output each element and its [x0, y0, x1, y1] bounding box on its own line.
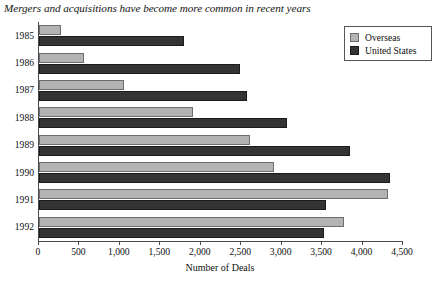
bar-1990-overseas: [39, 162, 274, 172]
bar-1991-overseas: [39, 189, 388, 199]
bar-group: [39, 159, 403, 186]
bar-1988-united-states: [39, 118, 287, 128]
bar-1988-overseas: [39, 107, 193, 117]
dark-gray-swatch: [350, 46, 359, 55]
x-tick: [281, 241, 282, 245]
legend-item: Overseas: [350, 31, 426, 43]
x-tick: [119, 241, 120, 245]
x-tick: [78, 241, 79, 245]
x-tick-label: 4,000: [351, 246, 373, 257]
legend-label: United States: [365, 45, 416, 56]
legend-label: Overseas: [365, 32, 400, 43]
bar-1986-united-states: [39, 64, 240, 74]
bar-1987-united-states: [39, 91, 247, 101]
bar-group: [39, 132, 403, 159]
x-tick-label: 1,500: [149, 246, 171, 257]
y-axis-label-1985: 1985: [0, 30, 34, 41]
x-tick-label: 0: [36, 246, 41, 257]
x-tick-label: 2,000: [189, 246, 211, 257]
bar-1985-overseas: [39, 25, 61, 35]
y-axis-label-1990: 1990: [0, 167, 34, 178]
x-tick-label: 4,500: [391, 246, 413, 257]
x-tick: [200, 241, 201, 245]
light-gray-swatch: [350, 33, 359, 42]
x-axis-title: Number of Deals: [38, 262, 402, 273]
x-tick-label: 3,500: [310, 246, 332, 257]
y-axis-label-1991: 1991: [0, 194, 34, 205]
x-tick-label: 500: [71, 246, 85, 257]
y-axis-label-1989: 1989: [0, 139, 34, 150]
x-axis-tick-labels: 05001,0001,5002,0002,5003,0003,5004,0004…: [0, 246, 439, 260]
bar-group: [39, 186, 403, 213]
bar-1985-united-states: [39, 36, 184, 46]
bar-group: [39, 77, 403, 104]
x-tick: [240, 241, 241, 245]
x-tick-label: 2,500: [229, 246, 251, 257]
bar-1987-overseas: [39, 80, 124, 90]
bar-1990-united-states: [39, 173, 390, 183]
x-tick: [38, 241, 39, 245]
bar-1989-united-states: [39, 146, 350, 156]
chart-legend: OverseasUnited States: [344, 26, 432, 61]
x-tick: [362, 241, 363, 245]
y-axis-label-1988: 1988: [0, 112, 34, 123]
bar-1986-overseas: [39, 53, 84, 63]
x-tick: [321, 241, 322, 245]
chart-title: Mergers and acquisitions have become mor…: [4, 2, 311, 14]
y-axis-label-1992: 1992: [0, 221, 34, 232]
y-axis-label-1986: 1986: [0, 57, 34, 68]
bar-1992-united-states: [39, 228, 324, 238]
x-tick: [159, 241, 160, 245]
y-axis-label-1987: 1987: [0, 84, 34, 95]
bar-group: [39, 214, 403, 241]
x-tick: [402, 241, 403, 245]
bar-1992-overseas: [39, 217, 344, 227]
x-tick-label: 3,000: [270, 246, 292, 257]
y-axis-labels: 19851986198719881989199019911992: [0, 22, 34, 241]
bar-group: [39, 104, 403, 131]
x-tick-label: 1,000: [108, 246, 130, 257]
bar-1991-united-states: [39, 200, 326, 210]
legend-item: United States: [350, 44, 426, 56]
chart-figure: Mergers and acquisitions have become mor…: [0, 0, 439, 284]
bar-1989-overseas: [39, 135, 250, 145]
